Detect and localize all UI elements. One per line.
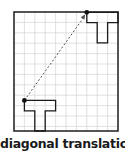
diagram-caption: diagonal translation bbox=[0, 136, 125, 151]
translation-arrow bbox=[24, 17, 83, 100]
grid bbox=[14, 12, 118, 131]
translation-diagram bbox=[0, 0, 125, 157]
end-point bbox=[84, 10, 89, 15]
translated-t-shape bbox=[87, 12, 118, 43]
start-point bbox=[22, 98, 27, 103]
